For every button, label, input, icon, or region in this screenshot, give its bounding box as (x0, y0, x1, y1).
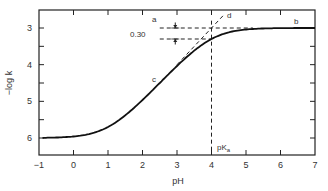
x-tick-label: 0 (71, 160, 76, 170)
y-axis-label: −log k (4, 70, 14, 95)
annotation-a: a (152, 15, 157, 24)
x-tick-label: 2 (140, 160, 145, 170)
annotation-gap: 0.30 (130, 30, 146, 39)
x-tick-label: 7 (312, 160, 317, 170)
annotation-b: b (294, 17, 299, 26)
y-tick-label: 4 (27, 60, 32, 70)
x-tick-label: −1 (34, 160, 44, 170)
annotation-c: c (152, 75, 156, 84)
x-tick-label: 1 (105, 160, 110, 170)
y-tick-label: 6 (27, 133, 32, 143)
chart: −101234567 3456 pH −log k a b c d 0.30 p… (0, 0, 328, 191)
annotation-d: d (227, 11, 231, 20)
x-tick-label: 4 (209, 160, 214, 170)
y-tick-label: 5 (27, 96, 32, 106)
reference-lines (160, 15, 253, 155)
y-axis-ticks: 3456 (27, 23, 315, 143)
x-tick-label: 3 (174, 160, 179, 170)
x-axis-label: pH (172, 176, 184, 186)
x-axis-ticks: −101234567 (34, 10, 318, 170)
y-tick-label: 3 (27, 23, 32, 33)
plot-frame (39, 10, 315, 155)
x-tick-label: 5 (243, 160, 248, 170)
annotation-pka: pKa (217, 143, 231, 153)
x-tick-label: 6 (278, 160, 283, 170)
data-curve (43, 28, 316, 138)
